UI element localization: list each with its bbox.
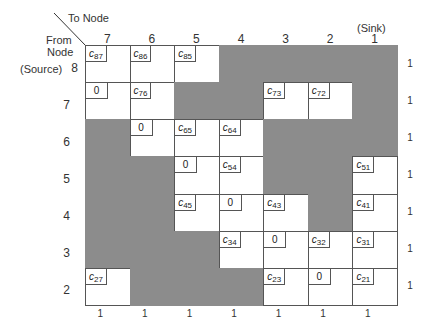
- column-capacity: 1: [316, 308, 330, 319]
- zero-cost-tag: 0: [175, 157, 197, 173]
- cost-subscript: 76: [139, 89, 148, 98]
- matrix-cell: c73: [263, 82, 309, 120]
- row-header: 3: [10, 246, 70, 260]
- cost-subscript: 54: [228, 163, 237, 172]
- shaded-cell: [174, 82, 220, 120]
- shaded-cell: [352, 82, 398, 120]
- shaded-cell: [308, 119, 354, 157]
- matrix-cell: c51: [352, 156, 398, 194]
- column-header: 1: [365, 32, 385, 46]
- cost-subscript: 43: [272, 201, 281, 210]
- row-header: 6: [10, 135, 70, 149]
- cost-tag: c32: [309, 232, 330, 248]
- cost-subscript: 73: [272, 89, 281, 98]
- cost-subscript: 86: [139, 52, 148, 61]
- matrix-cell: c85: [174, 45, 220, 83]
- shaded-cell: [174, 231, 220, 269]
- zero-cost-tag: 0: [86, 83, 108, 99]
- cost-tag: c34: [220, 232, 241, 248]
- shaded-cell: [263, 156, 309, 194]
- cost-tag: c85: [175, 46, 196, 62]
- cost-tag: c31: [353, 232, 374, 248]
- column-capacity: 1: [361, 308, 375, 319]
- column-header: 4: [231, 32, 251, 46]
- shaded-cell: [352, 45, 398, 83]
- row-capacity: 1: [403, 169, 417, 180]
- cost-subscript: 27: [94, 275, 103, 284]
- matrix-cell: c65: [174, 119, 220, 157]
- cost-tag: c41: [353, 195, 374, 211]
- column-capacity: 1: [93, 308, 107, 319]
- cost-subscript: 72: [317, 89, 326, 98]
- cost-tag: c27: [86, 269, 107, 285]
- cost-tag: c64: [220, 120, 241, 136]
- row-capacity: 1: [403, 243, 417, 254]
- column-header: 5: [186, 32, 206, 46]
- source-label: (Source): [20, 63, 62, 75]
- cost-subscript: 64: [228, 126, 237, 135]
- matrix-cell: 0: [308, 268, 354, 306]
- column-capacity: 1: [182, 308, 196, 319]
- matrix-cell: c34: [219, 231, 265, 269]
- shaded-cell: [219, 82, 265, 120]
- cost-subscript: 87: [94, 52, 103, 61]
- shaded-cell: [308, 194, 354, 232]
- row-capacity: 1: [403, 58, 417, 69]
- cost-tag: c51: [353, 157, 374, 173]
- matrix-cell: c87: [85, 45, 131, 83]
- shaded-cell: [130, 268, 176, 306]
- zero-cost-tag: 0: [264, 232, 286, 248]
- matrix-cell: c21: [352, 268, 398, 306]
- cost-subscript: 32: [317, 238, 326, 247]
- row-capacity: 1: [403, 132, 417, 143]
- cost-subscript: 45: [183, 201, 192, 210]
- cost-subscript: 34: [228, 238, 237, 247]
- shaded-cell: [85, 231, 131, 269]
- cost-tag: c54: [220, 157, 241, 173]
- row-capacity: 1: [403, 95, 417, 106]
- row-capacity: 1: [403, 280, 417, 291]
- row-header: 4: [10, 209, 70, 223]
- column-header: 7: [97, 32, 117, 46]
- cost-tag: c65: [175, 120, 196, 136]
- cost-subscript: 65: [183, 126, 192, 135]
- shaded-cell: [85, 156, 131, 194]
- assignment-matrix: c87c86c850c76c73c720c65c640c54c51c450c43…: [85, 45, 397, 305]
- shaded-cell: [85, 119, 131, 157]
- zero-cost-tag: 0: [309, 269, 331, 285]
- zero-cost-tag: 0: [220, 195, 242, 211]
- matrix-cell: c72: [308, 82, 354, 120]
- matrix-cell: c31: [352, 231, 398, 269]
- shaded-cell: [130, 156, 176, 194]
- matrix-cell: 0: [174, 156, 220, 194]
- shaded-cell: [219, 268, 265, 306]
- shaded-cell: [174, 268, 220, 306]
- from-node-label-line2: Node: [47, 46, 73, 58]
- cost-tag: c43: [264, 195, 285, 211]
- cost-subscript: 23: [272, 275, 281, 284]
- row-header: 5: [10, 172, 70, 186]
- column-capacity: 1: [272, 308, 286, 319]
- cost-tag: c45: [175, 195, 196, 211]
- cost-tag: c73: [264, 83, 285, 99]
- shaded-cell: [352, 119, 398, 157]
- row-capacity: 1: [403, 206, 417, 217]
- matrix-cell: c64: [219, 119, 265, 157]
- matrix-cell: c23: [263, 268, 309, 306]
- shaded-cell: [85, 194, 131, 232]
- matrix-cell: 0: [263, 231, 309, 269]
- row-header: 7: [10, 98, 70, 112]
- from-node-label-line1: From: [46, 34, 72, 46]
- cost-tag: c86: [131, 46, 152, 62]
- matrix-cell: c54: [219, 156, 265, 194]
- cost-tag: c76: [131, 83, 152, 99]
- matrix-cell: c32: [308, 231, 354, 269]
- matrix-cell: 0: [130, 119, 176, 157]
- column-header: 3: [276, 32, 296, 46]
- shaded-cell: [130, 231, 176, 269]
- cost-tag: c21: [353, 269, 374, 285]
- column-header: 2: [320, 32, 340, 46]
- shaded-cell: [308, 156, 354, 194]
- column-header: 6: [142, 32, 162, 46]
- shaded-cell: [263, 119, 309, 157]
